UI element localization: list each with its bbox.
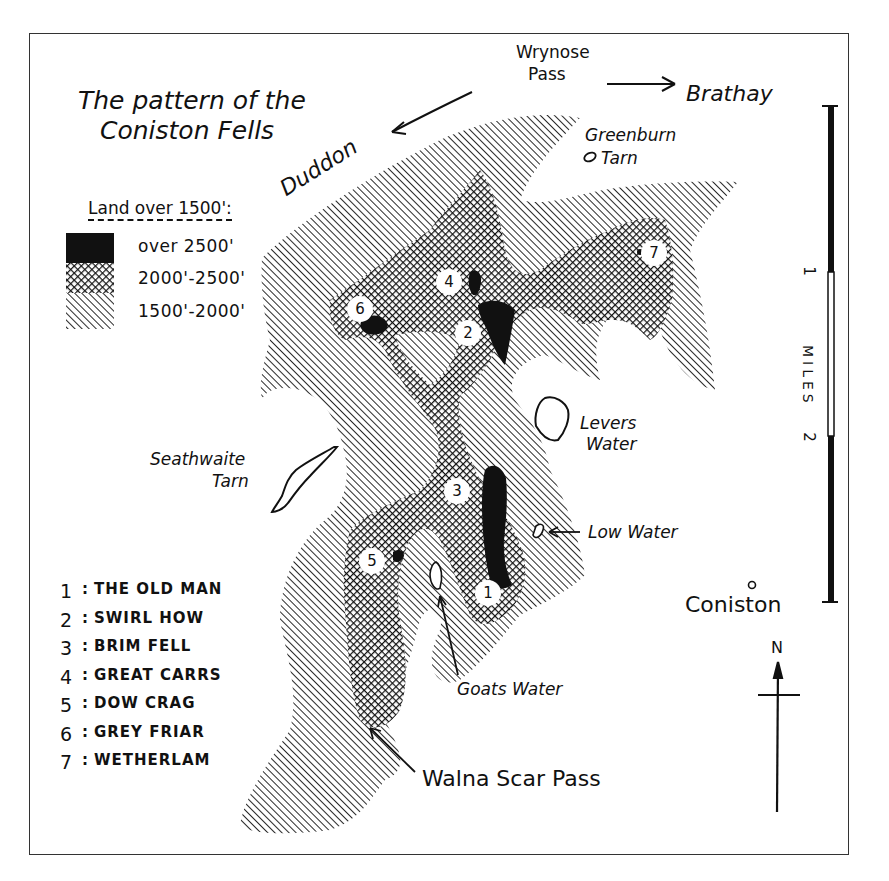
peak-key-row: 6:GREY FRIAR xyxy=(60,723,222,752)
tarn-levers-water xyxy=(535,397,568,440)
peak-key-row: 2:SWIRL HOW xyxy=(60,609,222,638)
peak-name: BRIM FELL xyxy=(94,637,191,666)
peak-badge-wetherlam: 7 xyxy=(641,240,667,266)
peak-name: GREY FRIAR xyxy=(94,723,205,752)
label-greenburn: Greenburn xyxy=(585,127,676,144)
peak-badge-old-man: 1 xyxy=(475,580,501,606)
legend-label-2000-2500: 2000'-2500' xyxy=(138,270,246,287)
label-wrynose: Wrynose xyxy=(516,44,590,61)
legend-swatch-1500-2000 xyxy=(66,293,114,329)
peak-badge-great-carrs: 4 xyxy=(436,269,462,295)
label-seathwaite-tarn: Tarn xyxy=(212,473,249,490)
legend-swatch-over-2500 xyxy=(66,233,114,263)
peak-badge-grey-friar: 6 xyxy=(347,296,373,322)
label-brathay: Brathay xyxy=(686,83,773,105)
arrow-wrynose-to-brathay xyxy=(607,77,675,91)
scale-tick-2: 2 xyxy=(800,432,818,442)
label-goats-water: Goats Water xyxy=(457,681,562,698)
legend-label-over-2500: over 2500' xyxy=(138,238,234,255)
peak-name: THE OLD MAN xyxy=(94,580,222,609)
label-walna-scar-pass: Walna Scar Pass xyxy=(422,768,601,790)
label-greenburn-tarn: Tarn xyxy=(601,150,638,167)
peak-key-row: 4:GREAT CARRS xyxy=(60,666,222,695)
legend-label-1500-2000: 1500'-2000' xyxy=(138,303,246,320)
label-low-water: Low Water xyxy=(588,524,678,541)
scale-bar xyxy=(822,106,838,602)
map-title-line1: The pattern of the xyxy=(78,86,306,116)
tarn-seathwaite xyxy=(272,447,337,512)
peak-name: SWIRL HOW xyxy=(94,609,204,638)
peak-key-row: 1:THE OLD MAN xyxy=(60,580,222,609)
peak-key-row: 5:DOW CRAG xyxy=(60,694,222,723)
label-levers-water: Water xyxy=(586,436,636,453)
tarn-greenburn xyxy=(583,151,597,163)
peak-name: GREAT CARRS xyxy=(94,666,222,695)
peak-key: 1:THE OLD MAN 2:SWIRL HOW 3:BRIM FELL 4:… xyxy=(60,580,222,780)
peak-key-row: 3:BRIM FELL xyxy=(60,637,222,666)
compass xyxy=(758,662,800,812)
label-levers: Levers xyxy=(580,415,636,432)
scale-unit: MILES xyxy=(800,345,816,407)
scale-tick-1: 1 xyxy=(800,266,818,276)
compass-north-label: N xyxy=(771,640,783,656)
legend-swatch-2000-2500 xyxy=(66,263,114,293)
label-wrynose-pass: Pass xyxy=(528,66,566,83)
legend-heading: Land over 1500': xyxy=(88,200,232,221)
peak-name: WETHERLAM xyxy=(94,751,210,780)
arrow-wrynose-to-duddon xyxy=(392,92,472,134)
label-seathwaite: Seathwaite xyxy=(150,451,245,468)
coniston-marker xyxy=(749,582,756,589)
label-coniston: Coniston xyxy=(685,594,781,616)
peak-badge-dow-crag: 5 xyxy=(359,548,385,574)
peak-badge-swirl-how: 2 xyxy=(455,320,481,346)
map-title: The pattern of the Coniston Fells xyxy=(78,86,306,146)
map-title-line2: Coniston Fells xyxy=(78,116,306,146)
peak-name: DOW CRAG xyxy=(94,694,195,723)
peak-badge-brim-fell: 3 xyxy=(444,478,470,504)
peak-key-row: 7:WETHERLAM xyxy=(60,751,222,780)
